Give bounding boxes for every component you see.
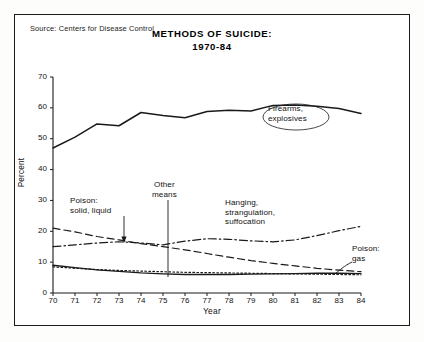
series-line-poison-solid-liquid bbox=[53, 228, 361, 272]
series-line-poison-gas bbox=[53, 265, 361, 274]
chart-plot bbox=[0, 0, 424, 342]
series-line-firearms-explosives bbox=[53, 105, 361, 148]
data-series-layer bbox=[53, 105, 361, 275]
chart-page: Source: Centers for Disease Control METH… bbox=[0, 0, 424, 342]
firearms-callout-ellipse bbox=[263, 104, 329, 130]
axis-lines bbox=[53, 77, 361, 293]
